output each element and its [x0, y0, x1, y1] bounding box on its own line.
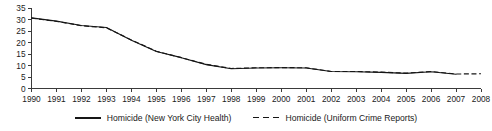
x-tick-label: 1990: [22, 94, 41, 104]
y-tick-label: 20: [16, 38, 26, 48]
x-tick-label: 2007: [447, 94, 466, 104]
x-tick-label: 1995: [147, 94, 166, 104]
x-tick-label: 1994: [122, 94, 141, 104]
x-tick-label: 2001: [297, 94, 316, 104]
x-tick-label: 2004: [372, 94, 391, 104]
x-tick-label: 1991: [47, 94, 66, 104]
y-tick-label: 25: [16, 26, 26, 36]
x-tick-label: 1996: [172, 94, 191, 104]
x-tick-label: 1997: [197, 94, 216, 104]
x-tick-label: 1993: [97, 94, 116, 104]
x-tick-label: 1999: [247, 94, 266, 104]
legend-entry-uniform-crime-reports: Homicide (Uniform Crime Reports): [253, 113, 417, 123]
legend-entry-nyc-health: Homicide (New York City Health): [75, 113, 232, 123]
legend-label-nyc-health: Homicide (New York City Health): [107, 113, 232, 123]
x-tick-label: 2005: [397, 94, 416, 104]
x-tick-label: 2000: [272, 94, 291, 104]
y-tick-label: 35: [16, 3, 26, 13]
y-tick-label: 0: [21, 84, 26, 94]
legend-swatch-solid-line-icon: [75, 117, 101, 118]
y-tick-label: 10: [16, 61, 26, 71]
x-tick-label: 2003: [347, 94, 366, 104]
y-tick-label: 15: [16, 49, 26, 59]
x-tick-label: 1998: [222, 94, 241, 104]
legend-swatch-dashed-line-icon: [253, 117, 279, 118]
x-tick-label: 2002: [322, 94, 341, 104]
x-tick-label: 2006: [422, 94, 441, 104]
legend-label-uniform-crime-reports: Homicide (Uniform Crime Reports): [285, 113, 417, 123]
homicide-rate-line-chart: 0510152025303519901991199219931994199519…: [0, 0, 492, 131]
x-tick-label: 2008: [472, 94, 491, 104]
y-tick-label: 5: [21, 72, 26, 82]
chart-legend: Homicide (New York City Health) Homicide…: [0, 107, 492, 129]
x-tick-label: 1992: [72, 94, 91, 104]
y-tick-label: 30: [16, 15, 26, 25]
